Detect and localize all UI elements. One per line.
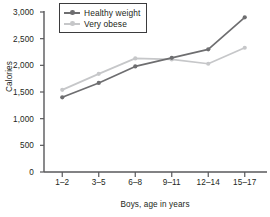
legend-dot-icon bbox=[70, 10, 75, 15]
data-point bbox=[243, 46, 247, 50]
data-point bbox=[133, 64, 137, 68]
data-point bbox=[206, 62, 210, 66]
series-line-very-obese bbox=[62, 48, 245, 90]
legend-item-healthy-weight: Healthy weight bbox=[64, 7, 140, 18]
data-point bbox=[206, 47, 210, 51]
data-point bbox=[97, 72, 101, 76]
line-chart: Calories 05001,0001,5002,0002,5003,000 1… bbox=[0, 0, 270, 217]
legend-dot-icon bbox=[70, 21, 75, 26]
data-point bbox=[243, 15, 247, 19]
x-axis-title: Boys, age in years bbox=[44, 200, 266, 209]
legend-item-very-obese: Very obese bbox=[64, 18, 140, 29]
chart-legend: Healthy weight Very obese bbox=[59, 3, 147, 33]
legend-label: Very obese bbox=[84, 19, 127, 29]
legend-marker-icon bbox=[64, 19, 80, 28]
data-point bbox=[60, 95, 64, 99]
data-point bbox=[133, 56, 137, 60]
data-point bbox=[170, 56, 174, 60]
data-point bbox=[60, 88, 64, 92]
data-point bbox=[97, 81, 101, 85]
legend-label: Healthy weight bbox=[84, 8, 140, 18]
legend-marker-icon bbox=[64, 8, 80, 17]
